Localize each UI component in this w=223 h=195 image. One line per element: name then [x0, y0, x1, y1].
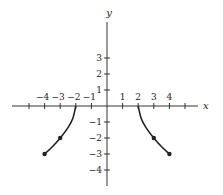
y-tick-label: 3: [96, 53, 102, 63]
x-axis-label: x: [203, 100, 209, 111]
x-tick-label: −3: [52, 92, 66, 102]
x-tick-label: 4: [167, 92, 173, 102]
tick-labels: −4−3−2−11234321−1−2−3−4: [36, 53, 173, 175]
function-graph: −4−3−2−11234321−1−2−3−4 x y: [0, 0, 223, 195]
x-tick-label: −1: [83, 92, 96, 102]
y-tick-label: −4: [89, 165, 103, 175]
data-point-marker: [152, 136, 156, 140]
y-tick-label: 1: [96, 85, 102, 95]
data-point-marker: [167, 152, 171, 156]
y-tick-label: −3: [89, 149, 103, 159]
x-tick-label: −4: [36, 92, 50, 102]
curve-left-branch: [45, 106, 76, 154]
y-tick-label: 2: [96, 69, 102, 79]
x-tick-label: 2: [135, 92, 141, 102]
y-tick-label: −2: [89, 133, 102, 143]
data-point-marker: [58, 136, 62, 140]
x-tick-label: 1: [120, 92, 126, 102]
data-point-marker: [42, 152, 46, 156]
y-tick-label: −1: [89, 117, 102, 127]
axes: [12, 22, 198, 186]
x-tick-label: 3: [151, 92, 157, 102]
x-tick-label: −2: [67, 92, 80, 102]
y-axis-label: y: [105, 7, 112, 18]
curve-right-branch: [138, 106, 169, 154]
